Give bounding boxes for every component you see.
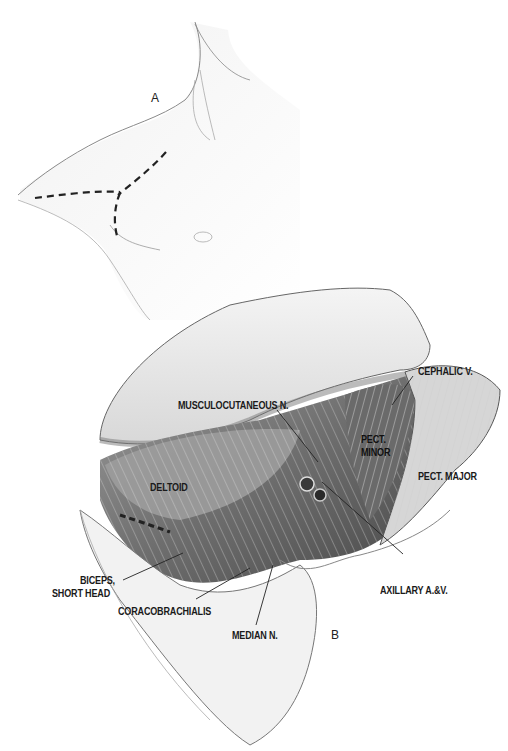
label-pect-major: PECT. MAJOR (418, 470, 477, 482)
panel-a-label: A (151, 91, 159, 105)
label-pect-minor-line1: PECT. (361, 433, 386, 445)
label-biceps-line1: BICEPS, (80, 574, 115, 586)
panel-b-drawing (80, 288, 500, 745)
panel-b-label: B (331, 628, 339, 642)
label-biceps-line2: SHORT HEAD (52, 587, 110, 599)
label-coracobrachialis: CORACOBRACHIALIS (118, 605, 211, 617)
label-cephalic-vein: CEPHALIC V. (418, 365, 473, 377)
label-musculocutaneous-nerve: MUSCULOCUTANEOUS N. (178, 399, 288, 411)
panel-a-drawing (18, 22, 300, 320)
label-pect-minor-line2: MINOR (361, 446, 390, 458)
label-axillary-artery-vein: AXILLARY A.&V. (380, 584, 448, 596)
label-deltoid: DELTOID (150, 481, 188, 493)
label-median-nerve: MEDIAN N. (232, 629, 278, 641)
